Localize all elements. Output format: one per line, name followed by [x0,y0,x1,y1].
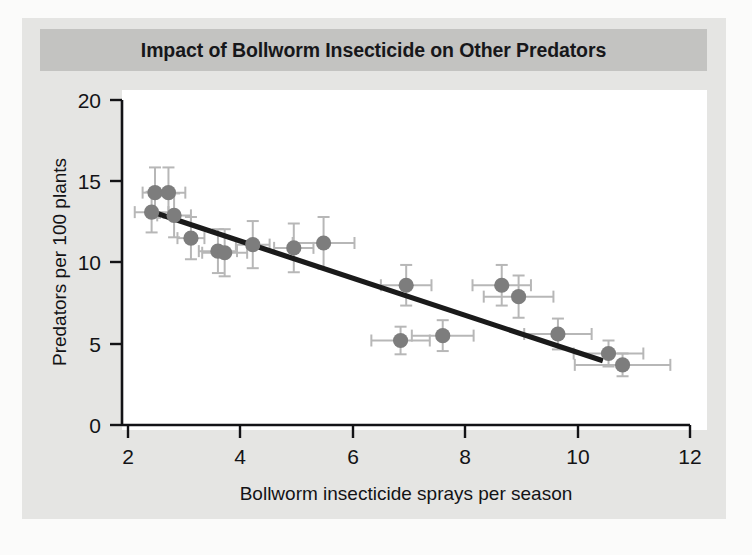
data-point [511,289,526,304]
data-point [435,328,450,343]
data-point [316,235,331,250]
data-point [217,245,232,260]
data-point [286,240,301,255]
data-point [494,278,509,293]
x-tick-label: 6 [347,445,359,468]
data-point [144,205,159,220]
data-point [245,237,260,252]
data-point [393,333,408,348]
data-point [399,278,414,293]
figure-root: Impact of Bollworm Insecticide on Other … [0,0,752,555]
x-axis-title: Bollworm insecticide sprays per season [240,483,573,504]
y-tick-label: 5 [89,333,101,356]
data-point [601,346,616,361]
trendline [150,211,602,361]
x-axis-ticks [128,425,690,438]
y-tick-label: 0 [89,414,101,437]
y-axis-title: Predators per 100 plants [49,158,70,366]
data-point [166,208,181,223]
data-point [615,357,630,372]
x-tick-label: 8 [459,445,471,468]
trendline-layer [150,211,602,361]
scatter-chart: 20 15 10 5 0 2 4 6 8 10 12 Bollworm inse… [0,0,752,555]
y-tick-label: 20 [78,89,101,112]
data-point [147,185,162,200]
y-tick-label: 10 [78,251,101,274]
x-tick-label: 4 [234,445,246,468]
chart-axes [122,100,690,425]
x-tick-label: 2 [122,445,134,468]
data-point [161,185,176,200]
data-point [550,326,565,341]
data-point [183,231,198,246]
x-tick-label: 12 [678,445,701,468]
y-axis-ticks [110,100,122,425]
y-tick-label: 15 [78,170,101,193]
y-tick-labels: 20 15 10 5 0 [78,89,101,437]
x-tick-label: 10 [566,445,589,468]
x-tick-labels: 2 4 6 8 10 12 [122,445,702,468]
